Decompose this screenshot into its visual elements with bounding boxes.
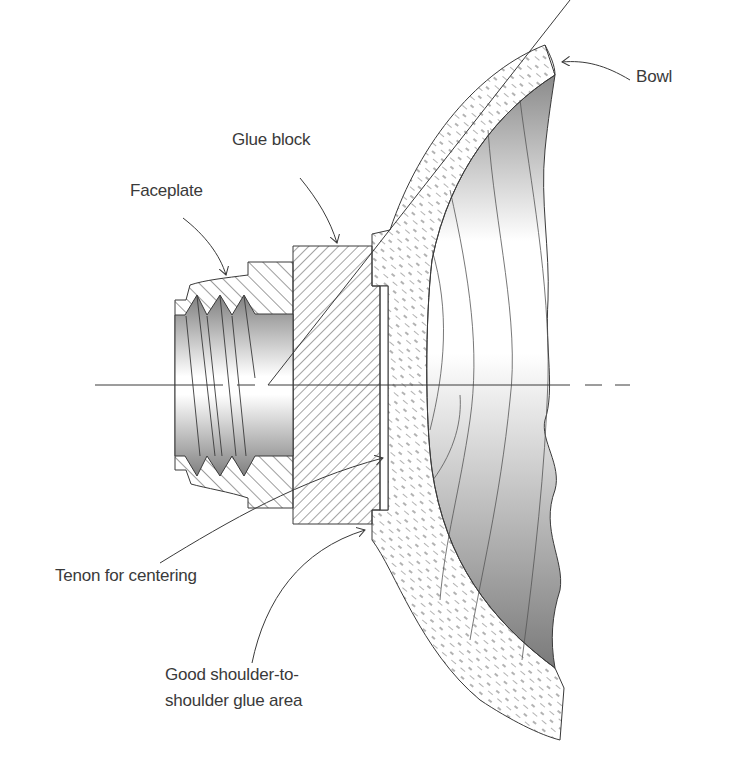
label-shoulder-line1: Good shoulder-to- [165, 662, 302, 688]
bowl-glue-block-diagram [0, 0, 730, 773]
glue-block-leader [300, 178, 337, 243]
label-glue-block: Glue block [232, 130, 310, 150]
label-bowl: Bowl [636, 67, 672, 87]
label-shoulder-glue-area: Good shoulder-to- shoulder glue area [165, 662, 302, 714]
label-faceplate: Faceplate [130, 181, 203, 201]
label-tenon: Tenon for centering [55, 566, 197, 586]
tenon[interactable] [380, 286, 388, 510]
shoulder-leader [252, 530, 365, 663]
label-shoulder-line2: shoulder glue area [165, 688, 302, 714]
bowl-leader [562, 62, 630, 80]
faceplate-leader [183, 218, 226, 275]
